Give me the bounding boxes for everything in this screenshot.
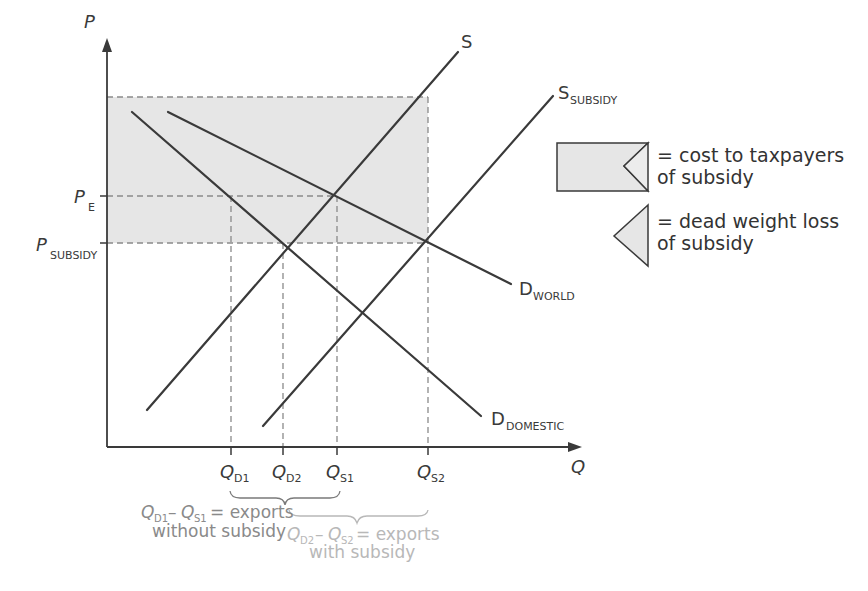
y-axis-arrow-icon (102, 38, 112, 52)
annotation-exports-with-subsidy: Q D2 – Q S2 = exports with subsidy (287, 524, 440, 562)
svg-text:–: – (168, 502, 177, 522)
legend-item-dead-weight-loss: = dead weight loss of subsidy (614, 205, 839, 266)
svg-text:P: P (36, 234, 47, 255)
x-axis-arrow-icon (568, 442, 582, 452)
y-tick-pe: P E (74, 186, 95, 214)
label-d-world: D WORLD (519, 278, 575, 303)
legend-item-cost-to-taxpayers: = cost to taxpayers of subsidy (557, 143, 844, 191)
svg-text:= exports: = exports (210, 502, 294, 522)
x-axis-label: Q (571, 456, 585, 477)
svg-text:SUBSIDY: SUBSIDY (50, 249, 97, 262)
svg-text:S: S (461, 31, 472, 52)
svg-text:of subsidy: of subsidy (657, 166, 754, 188)
legend: = cost to taxpayers of subsidy = dead we… (557, 143, 844, 266)
svg-text:Q: Q (141, 502, 154, 522)
subsidy-diagram: P Q P E P SUBSIDY Q D1 Q D2 Q S1 Q S2 S … (0, 0, 868, 591)
label-s: S (461, 31, 472, 52)
y-tick-psubsidy: P SUBSIDY (36, 234, 97, 262)
svg-text:Q: Q (272, 461, 286, 482)
svg-text:DOMESTIC: DOMESTIC (506, 420, 565, 433)
svg-text:P: P (74, 186, 85, 207)
svg-text:SUBSIDY: SUBSIDY (570, 94, 617, 107)
svg-text:Q: Q (220, 461, 234, 482)
taxpayer-cost-area (107, 97, 428, 243)
svg-text:WORLD: WORLD (533, 290, 575, 303)
brace-with-subsidy (289, 510, 428, 523)
svg-text:S2: S2 (431, 472, 445, 485)
x-tick-qs1: Q S1 (326, 461, 354, 485)
svg-text:D: D (491, 408, 505, 429)
y-axis-label: P (84, 11, 95, 32)
label-s-subsidy: S SUBSIDY (558, 82, 617, 107)
svg-text:= dead weight loss: = dead weight loss (657, 210, 839, 232)
svg-text:–: – (315, 524, 324, 544)
triangle-icon (614, 205, 648, 266)
svg-text:Q: Q (287, 524, 300, 544)
svg-text:Q: Q (328, 524, 341, 544)
x-tick-qd2: Q D2 (272, 461, 301, 485)
svg-text:without subsidy: without subsidy (152, 521, 286, 541)
svg-text:of subsidy: of subsidy (657, 232, 754, 254)
x-tick-qs2: Q S2 (417, 461, 445, 485)
svg-text:Q: Q (417, 461, 431, 482)
svg-text:S: S (558, 82, 569, 103)
label-d-domestic: D DOMESTIC (491, 408, 565, 433)
svg-text:D2: D2 (286, 472, 301, 485)
annotation-exports-without-subsidy: Q D1 – Q S1 = exports without subsidy (141, 502, 294, 541)
svg-text:D: D (519, 278, 533, 299)
svg-text:Q: Q (326, 461, 340, 482)
svg-text:D1: D1 (234, 472, 249, 485)
svg-text:S1: S1 (340, 472, 354, 485)
svg-text:E: E (88, 201, 95, 214)
svg-text:= exports: = exports (356, 524, 440, 544)
svg-text:Q: Q (181, 502, 194, 522)
x-tick-qd1: Q D1 (220, 461, 249, 485)
svg-text:with subsidy: with subsidy (309, 542, 415, 562)
svg-text:= cost to taxpayers: = cost to taxpayers (657, 144, 844, 166)
